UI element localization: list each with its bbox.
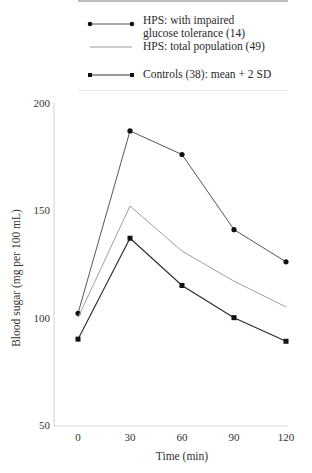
x-tick-label: 0	[75, 431, 81, 443]
y-tick-label: 100	[34, 312, 51, 324]
y-tick-label: 50	[39, 419, 51, 431]
series-line-3	[78, 238, 286, 341]
x-tick-label: 120	[278, 431, 295, 443]
x-tick-label: 90	[229, 431, 241, 443]
y-tick-label: 150	[34, 204, 51, 216]
square-marker	[180, 283, 185, 288]
x-tick-label: 60	[177, 431, 189, 443]
series-line-2	[78, 206, 286, 318]
line-chart: 501001502000306090120Time (min)Blood sug…	[0, 0, 312, 473]
circle-marker	[283, 259, 288, 264]
circle-marker	[231, 227, 236, 232]
circle-marker	[127, 128, 132, 133]
y-tick-label: 200	[34, 97, 51, 109]
x-axis-label: Time (min)	[156, 450, 208, 463]
square-marker	[76, 337, 81, 342]
circle-marker	[179, 152, 184, 157]
y-axis-label: Blood sugar (mg per 100 mL)	[10, 209, 23, 347]
square-marker	[128, 236, 133, 241]
square-marker	[284, 339, 289, 344]
square-marker	[232, 315, 237, 320]
x-tick-label: 30	[125, 431, 137, 443]
